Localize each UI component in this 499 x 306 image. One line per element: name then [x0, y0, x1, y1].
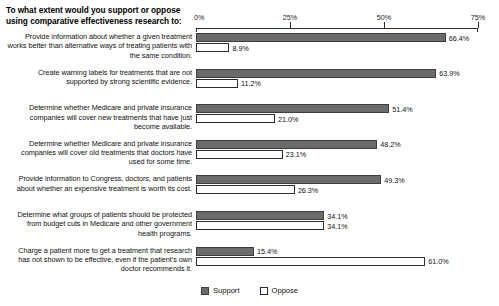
oppose-bar-value: 34.1%: [327, 222, 347, 231]
support-bar-value: 48.2%: [380, 140, 400, 149]
support-bar-value: 51.4%: [392, 105, 412, 114]
support-bar[interactable]: [196, 69, 436, 78]
category-label: Charge a patient more to get a treatment…: [6, 246, 192, 274]
support-bar-value: 66.4%: [449, 34, 469, 43]
support-bar-value: 34.1%: [327, 212, 347, 221]
x-axis-tick-label: 50%: [377, 13, 391, 22]
oppose-bar-value: 11.2%: [241, 79, 261, 88]
x-axis-tick-mark: [478, 22, 479, 28]
category-label: Determine whether Medicare and private i…: [6, 139, 192, 167]
category-label: Provide information to Congress, doctors…: [6, 174, 192, 193]
oppose-bar[interactable]: [196, 114, 275, 123]
legend-item-support[interactable]: Support: [201, 286, 240, 295]
comparative-effectiveness-research-chart: To what extent would you support or oppo…: [0, 0, 499, 306]
support-bar[interactable]: [196, 175, 381, 184]
oppose-bar-value: 26.3%: [298, 186, 318, 195]
support-bar[interactable]: [196, 211, 324, 220]
legend-item-oppose[interactable]: Oppose: [260, 286, 299, 295]
oppose-bar[interactable]: [196, 79, 238, 88]
oppose-bar[interactable]: [196, 150, 283, 159]
x-axis-end-cap: [477, 28, 478, 32]
category-label: Determine what groups of patients should…: [6, 210, 192, 238]
oppose-bar[interactable]: [196, 221, 324, 230]
x-axis-line: [196, 28, 478, 29]
filled-gray-swatch: [201, 287, 209, 295]
x-axis-start-cap: [196, 28, 197, 32]
oppose-bar-value: 61.0%: [428, 257, 448, 266]
category-label: Provide information about whether a give…: [6, 32, 192, 60]
chart-legend: SupportOppose: [0, 286, 499, 295]
category-label: Determine whether Medicare and private i…: [6, 103, 192, 131]
support-bar-value: 49.3%: [384, 176, 404, 185]
support-bar[interactable]: [196, 247, 254, 256]
support-bar-value: 15.4%: [257, 247, 277, 256]
chart-title: To what extent would you support or oppo…: [6, 5, 192, 27]
oppose-bar-value: 8.9%: [232, 44, 248, 53]
x-axis-tick-label: 25%: [283, 13, 297, 22]
legend-label: Support: [213, 286, 240, 295]
oppose-bar[interactable]: [196, 43, 229, 52]
support-bar[interactable]: [196, 33, 446, 42]
support-bar-value: 63.9%: [439, 69, 459, 78]
oppose-bar[interactable]: [196, 185, 295, 194]
support-bar[interactable]: [196, 104, 389, 113]
legend-label: Oppose: [272, 286, 299, 295]
support-bar[interactable]: [196, 140, 377, 149]
x-axis-tick-mark: [384, 22, 385, 28]
category-label: Create warning labels for treatments tha…: [6, 68, 192, 87]
oppose-bar-value: 23.1%: [286, 150, 306, 159]
x-axis-tick-mark: [290, 22, 291, 28]
x-axis-tick-label: 75%: [471, 13, 485, 22]
oppose-bar-value: 21.0%: [278, 115, 298, 124]
outlined-white-swatch: [260, 287, 268, 295]
oppose-bar[interactable]: [196, 257, 425, 266]
x-axis-tick-label: 0%: [194, 13, 204, 22]
